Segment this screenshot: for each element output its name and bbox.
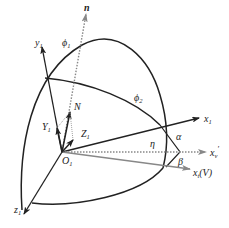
- phi2-label: ϕ2: [134, 92, 143, 104]
- Z1-label: Z1: [81, 128, 90, 140]
- xt-axis: [62, 152, 190, 169]
- force-vectors: [57, 112, 73, 152]
- Y1-label: Y1: [42, 121, 51, 133]
- coordinate-frame-diagram: n y1 ϕ1 ϕ2 N Y1 Z1 O1 x1 η α β xv′ xt(V)…: [0, 0, 229, 228]
- outer-arc-bottom: [32, 168, 163, 204]
- construction-line-2: [70, 112, 73, 140]
- x1-label: x1: [203, 113, 212, 125]
- z1-label: z1: [13, 204, 21, 216]
- xt-label: xt(V): [192, 167, 213, 179]
- N-vector: [62, 112, 70, 152]
- eta-label: η: [150, 138, 155, 149]
- N-label: N: [73, 101, 82, 112]
- Y1-vector: [57, 128, 62, 152]
- axes: [24, 14, 206, 214]
- phi1-label: ϕ1: [62, 37, 70, 49]
- n-label: n: [84, 2, 90, 13]
- alpha-label: α: [176, 131, 182, 142]
- y1-label: y1: [34, 37, 43, 49]
- xv-label: xv′: [209, 145, 219, 159]
- beta-label: β: [177, 156, 183, 167]
- inner-arc: [45, 78, 160, 125]
- labels: n y1 ϕ1 ϕ2 N Y1 Z1 O1 x1 η α β xv′ xt(V)…: [13, 2, 219, 216]
- O1-label: O1: [62, 155, 72, 167]
